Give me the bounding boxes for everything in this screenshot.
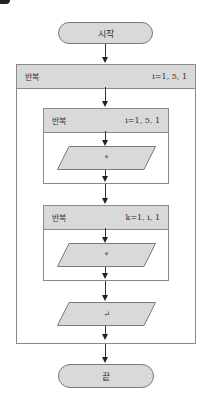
loop-keyword: 반복: [25, 71, 39, 82]
arrow-down-icon: [102, 295, 108, 301]
arrow-down-icon: [102, 357, 108, 363]
connector-line: [105, 87, 106, 102]
arrow-down-icon: [102, 176, 108, 182]
connector-line: [105, 344, 106, 358]
start-terminal: 시작: [58, 22, 153, 44]
arrow-down-icon: [102, 273, 108, 279]
outer-loop-header: 반복 i=1, 5, 1: [17, 65, 195, 89]
output-label: *: [105, 251, 109, 260]
output-label: *: [105, 154, 109, 163]
arrow-down-icon: [102, 101, 108, 107]
inner-loop-1-header: 반복 i=1, 5, 1: [44, 109, 168, 133]
end-label: 끝: [102, 370, 110, 383]
loop-range: k=1, i, 1: [126, 213, 160, 222]
connector-line: [105, 281, 106, 296]
output-newline: ↵: [57, 302, 156, 326]
loop-keyword: 반복: [52, 115, 66, 126]
start-label: 시작: [98, 27, 114, 40]
newline-icon: ↵: [103, 310, 110, 319]
output-star-1: *: [57, 146, 156, 170]
arrow-down-icon: [102, 334, 108, 340]
inner-loop-2-header: 반복 k=1, i, 1: [44, 206, 168, 230]
connector-line: [105, 44, 106, 58]
arrow-down-icon: [102, 198, 108, 204]
output-star-2: *: [57, 243, 156, 267]
arrow-down-icon: [102, 57, 108, 63]
end-terminal: 끝: [58, 364, 154, 388]
corner-mark: [0, 0, 10, 4]
loop-keyword: 반복: [52, 212, 66, 223]
loop-range: i=1, 5, 1: [152, 72, 187, 81]
loop-range: i=1, 5, 1: [125, 116, 160, 125]
